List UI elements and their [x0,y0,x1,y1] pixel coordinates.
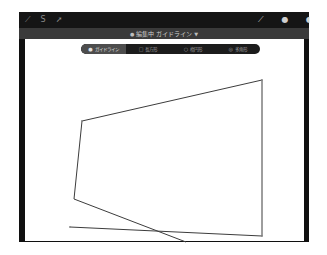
guide-lines-overlay [0,0,327,255]
guide-node-handle[interactable] [69,226,71,228]
guide-edge[interactable] [74,199,186,242]
polygon-nodes[interactable] [69,79,263,237]
guide-edge[interactable] [74,121,82,199]
guide-node-handle[interactable] [81,120,83,122]
polygon-guide[interactable] [70,80,262,242]
guide-node-handle[interactable] [261,235,263,237]
guide-edge[interactable] [82,80,262,121]
guide-node-handle[interactable] [261,79,263,81]
